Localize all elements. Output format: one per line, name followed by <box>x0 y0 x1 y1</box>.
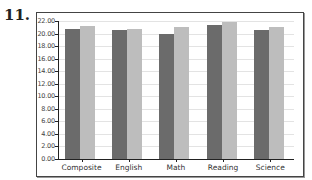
x-tick-label: English <box>105 163 152 172</box>
y-tick <box>55 121 59 122</box>
bar-math-series-2 <box>174 27 189 159</box>
plot-area <box>58 21 294 159</box>
y-tick-label: 22.00 <box>36 17 55 25</box>
x-tick-label: Math <box>152 163 199 172</box>
y-tick-label: 16.00 <box>36 55 55 63</box>
y-tick-label: 6.00 <box>36 117 55 125</box>
x-tick-label: Composite <box>58 163 105 172</box>
y-tick <box>55 59 59 60</box>
bar-science-series-2 <box>269 27 284 159</box>
y-tick-label: 4.00 <box>36 130 55 138</box>
question-number: 11. <box>4 6 30 24</box>
y-tick <box>55 34 59 35</box>
y-tick <box>55 146 59 147</box>
y-tick <box>55 134 59 135</box>
y-tick-label: 2.00 <box>36 142 55 150</box>
bar-composite-series-1 <box>65 29 80 159</box>
y-tick <box>55 21 59 22</box>
y-tick <box>55 84 59 85</box>
x-tick <box>176 159 177 162</box>
y-tick-label: 18.00 <box>36 42 55 50</box>
x-tick <box>223 159 224 162</box>
y-tick-label: 20.00 <box>36 30 55 38</box>
bar-composite-series-2 <box>80 26 95 159</box>
y-tick-label: 0.00 <box>36 155 55 163</box>
y-tick <box>55 46 59 47</box>
x-tick <box>270 159 271 162</box>
y-tick <box>55 96 59 97</box>
y-tick-label: 8.00 <box>36 105 55 113</box>
x-tick-label: Science <box>247 163 294 172</box>
x-tick-label: Reading <box>200 163 247 172</box>
y-tick <box>55 71 59 72</box>
gridline <box>58 21 294 22</box>
x-tick <box>129 159 130 162</box>
y-tick-label: 10.00 <box>36 92 55 100</box>
x-tick <box>82 159 83 162</box>
y-tick <box>55 159 59 160</box>
y-tick-label: 12.00 <box>36 80 55 88</box>
bar-english-series-2 <box>127 29 142 159</box>
bar-science-series-1 <box>254 30 269 159</box>
y-tick <box>55 109 59 110</box>
bar-reading-series-2 <box>222 22 237 159</box>
y-axis-line <box>58 21 59 160</box>
bar-math-series-1 <box>159 34 174 159</box>
y-tick-label: 14.00 <box>36 67 55 75</box>
bar-reading-series-1 <box>207 25 222 159</box>
bar-english-series-1 <box>112 30 127 159</box>
